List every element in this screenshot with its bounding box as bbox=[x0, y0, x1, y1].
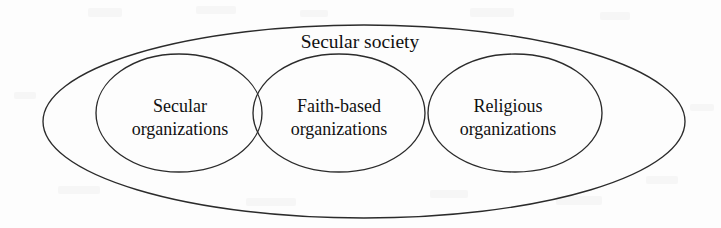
diagram-canvas: Secular society Secular organizations Fa… bbox=[0, 0, 721, 228]
religious-organizations-label-line1: Religious bbox=[473, 96, 542, 116]
religious-organizations-label-line2: organizations bbox=[460, 119, 557, 139]
secular-organizations-label-line1: Secular bbox=[153, 96, 207, 116]
venn-diagram-figure: Secular society Secular organizations Fa… bbox=[0, 0, 721, 228]
faith-based-organizations-label-line2: organizations bbox=[291, 119, 388, 139]
faith-based-organizations-label-line1: Faith-based bbox=[297, 96, 381, 116]
secular-organizations-label-line2: organizations bbox=[132, 119, 229, 139]
secular-society-label: Secular society bbox=[301, 31, 420, 52]
